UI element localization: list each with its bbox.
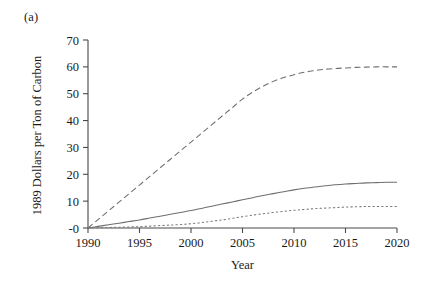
x-tick-label: 2015	[333, 236, 358, 250]
series-layer	[88, 67, 397, 228]
figure-panel-a: (a) 1989 Dollars per Ton of Carbon Year …	[0, 0, 428, 285]
y-tick-label: 40	[67, 114, 80, 128]
y-tick-label: 10	[67, 195, 80, 209]
y-tick-label: -0	[69, 222, 79, 236]
y-tick-label: 50	[67, 87, 80, 101]
series-line-dashed	[88, 67, 397, 228]
x-tick-label: 1990	[76, 236, 101, 250]
x-tick-label: 2020	[385, 236, 410, 250]
axis-layer	[83, 40, 397, 233]
x-tick-label: 1995	[127, 236, 152, 250]
x-tick-label: 2010	[282, 236, 307, 250]
y-tick-label: 70	[67, 34, 80, 48]
y-tick-label: 60	[67, 60, 80, 74]
y-tick-label: 30	[67, 141, 80, 155]
x-tick-label: 2005	[230, 236, 255, 250]
x-tick-label: 2000	[179, 236, 204, 250]
line-chart-plot: -010203040506070199019952000200520102015…	[0, 0, 428, 285]
y-tick-label: 20	[67, 168, 80, 182]
series-line-dotted	[88, 206, 397, 228]
